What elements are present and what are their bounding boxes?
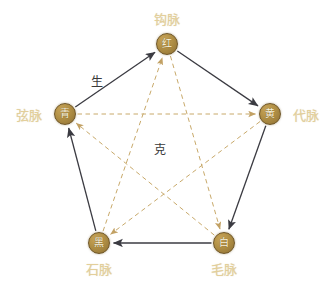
node-label-red: 钩脉 bbox=[154, 9, 180, 28]
node-green[interactable]: 青 bbox=[54, 103, 76, 125]
sheng-edge-red-to-yellow bbox=[177, 51, 258, 106]
node-white[interactable]: 白 bbox=[213, 232, 235, 254]
node-char-yellow: 黄 bbox=[265, 109, 275, 119]
ke-edge-group bbox=[76, 56, 260, 235]
ke-edge-red-to-white bbox=[170, 56, 220, 229]
node-char-green: 青 bbox=[60, 109, 70, 119]
wuxing-pulse-diagram: 红钩脉青弦脉黄代脉黑石脉白毛脉 生 克 bbox=[0, 0, 332, 290]
node-red[interactable]: 红 bbox=[156, 33, 178, 55]
node-char-red: 红 bbox=[162, 39, 172, 49]
node-label-yellow: 代脉 bbox=[293, 105, 319, 124]
sheng-edge-black-to-green bbox=[69, 128, 96, 231]
node-black[interactable]: 黑 bbox=[88, 232, 110, 254]
sheng-edge-green-to-red bbox=[75, 52, 155, 107]
node-label-green: 弦脉 bbox=[16, 105, 42, 124]
node-label-black: 石脉 bbox=[86, 259, 112, 278]
relation-label-ke: 克 bbox=[154, 140, 166, 157]
relation-label-sheng: 生 bbox=[91, 72, 103, 89]
node-char-white: 白 bbox=[219, 238, 229, 248]
node-yellow[interactable]: 黄 bbox=[259, 103, 281, 125]
node-char-black: 黑 bbox=[94, 238, 104, 248]
ke-edge-white-to-green bbox=[76, 123, 214, 235]
node-label-white: 毛脉 bbox=[211, 259, 237, 278]
ke-edge-yellow-to-black bbox=[111, 122, 260, 235]
